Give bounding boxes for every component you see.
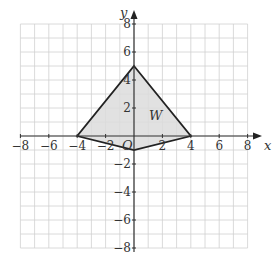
origin-label: O	[122, 138, 133, 153]
svg-text:−2: −2	[97, 139, 115, 153]
svg-text:6: 6	[123, 45, 131, 59]
svg-text:−6: −6	[113, 213, 131, 227]
svg-text:−2: −2	[113, 157, 131, 171]
svg-text:−8: −8	[113, 241, 131, 255]
svg-text:8: 8	[244, 139, 252, 153]
x-axis-label: x	[264, 138, 272, 153]
svg-text:4: 4	[123, 73, 131, 87]
svg-text:4: 4	[187, 139, 195, 153]
svg-text:2: 2	[159, 139, 167, 153]
y-axis-label: y	[119, 5, 128, 20]
svg-text:2: 2	[123, 101, 131, 115]
shape-label-w: W	[149, 108, 164, 123]
svg-text:6: 6	[215, 139, 223, 153]
svg-text:−4: −4	[113, 185, 131, 199]
svg-text:−4: −4	[68, 139, 86, 153]
svg-text:−6: −6	[40, 139, 58, 153]
svg-text:−8: −8	[12, 139, 30, 153]
coordinate-grid-diagram: −8−6−4−224688642−2−4−6−8 x y O W	[0, 0, 279, 264]
y-axis-arrow-icon	[131, 10, 138, 19]
x-axis-arrow-icon	[253, 133, 262, 140]
